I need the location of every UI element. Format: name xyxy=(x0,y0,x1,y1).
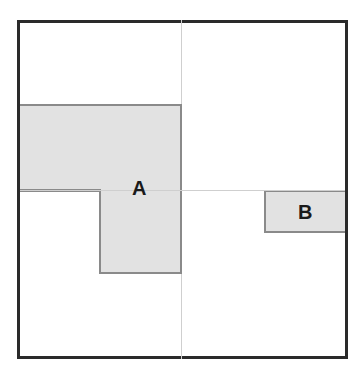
shape-a-top xyxy=(20,104,182,192)
shape-b-label: B xyxy=(298,202,312,222)
horizontal-center-guide xyxy=(20,190,345,191)
shape-a-label: A xyxy=(132,178,146,198)
shape-a-bottom xyxy=(99,189,182,274)
